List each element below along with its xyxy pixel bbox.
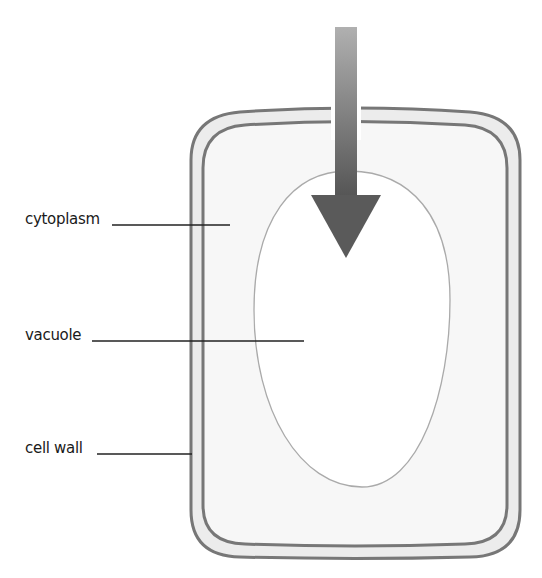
- vacuole-label: vacuole: [25, 328, 81, 343]
- cytoplasm-label: cytoplasm: [25, 212, 100, 227]
- plant-cell-diagram: [0, 0, 542, 578]
- cell-wall-label: cell wall: [25, 441, 83, 456]
